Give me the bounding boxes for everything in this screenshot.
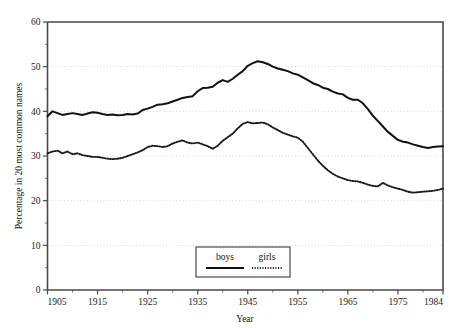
y-tick-label: 0 [36, 285, 41, 295]
legend-label-boys[interactable]: boys [216, 252, 234, 262]
x-tick-label: 1935 [188, 297, 207, 307]
data-series [48, 61, 444, 192]
y-tick-label: 20 [31, 196, 41, 206]
legend-box [196, 247, 290, 277]
y-axis-title: Percentage in 20 most common names [14, 82, 24, 229]
y-tick-label: 40 [31, 107, 41, 117]
x-tick-label: 1984 [424, 297, 443, 307]
x-tick-label: 1965 [338, 297, 357, 307]
x-tick-label: 1915 [88, 297, 107, 307]
chart-legend[interactable]: boysgirls [196, 247, 290, 277]
x-tick-label: 1945 [238, 297, 257, 307]
x-tick-label: 1955 [288, 297, 307, 307]
x-tick-label: 1925 [138, 297, 157, 307]
chart-container: 1905191519251935194519551965197519840102… [0, 0, 466, 328]
series-line-boys [48, 61, 444, 148]
legend-label-girls[interactable]: girls [259, 252, 276, 262]
y-tick-label: 60 [31, 17, 41, 27]
series-line-girls [48, 122, 444, 193]
x-axis-title: Year [236, 314, 254, 324]
gridlines [48, 22, 444, 245]
x-tick-label: 1905 [48, 297, 67, 307]
line-chart: 1905191519251935194519551965197519840102… [0, 0, 466, 328]
y-tick-label: 50 [31, 62, 41, 72]
y-tick-label: 30 [31, 151, 41, 161]
y-tick-label: 10 [31, 241, 41, 251]
x-tick-label: 1975 [388, 297, 407, 307]
